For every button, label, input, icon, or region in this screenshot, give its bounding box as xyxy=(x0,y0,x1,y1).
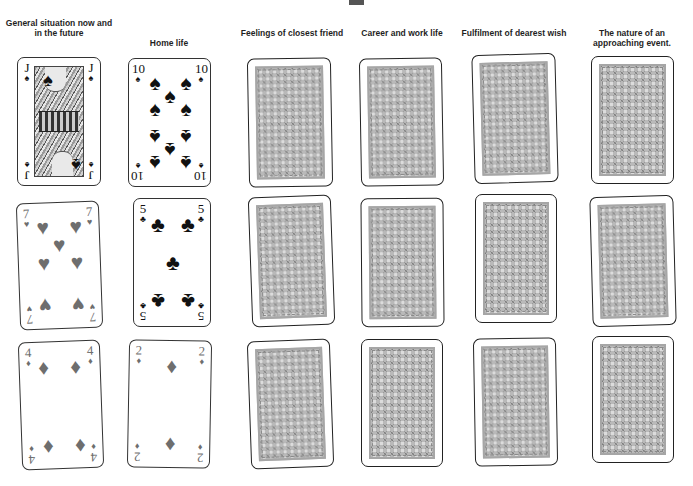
card-face-down[interactable] xyxy=(360,198,444,328)
card-index: 10♠ xyxy=(132,161,144,182)
spade-icon: ♠ xyxy=(132,75,144,84)
card-index: J♠ xyxy=(21,160,33,181)
diamond-icon: ♦ xyxy=(133,356,145,365)
card-back-pattern xyxy=(483,202,549,315)
diamond-icon: ♦ xyxy=(65,356,86,377)
heart-icon: ♥ xyxy=(20,220,32,229)
spade-icon: ♠ xyxy=(176,153,196,173)
top-edge-mark xyxy=(349,0,364,5)
heart-icon: ♥ xyxy=(34,253,55,274)
diamond-icon: ♦ xyxy=(70,434,91,455)
club-icon: ♣ xyxy=(178,291,198,311)
column-label-dearest-wish: Fulfilment of dearest wish xyxy=(459,28,569,38)
card-five-of-clubs[interactable]: 5♣ 5♣ 5♣ 5♣ ♣ ♣ ♣ ♣ ♣ xyxy=(133,198,211,327)
diamond-icon: ♦ xyxy=(33,357,54,378)
card-four-of-diamonds[interactable]: 4♦ 4♦ 4♦ 4♦ ♦ ♦ ♦ ♦ xyxy=(18,340,104,471)
column-label-general-situation: General situation now and in the future xyxy=(4,18,114,38)
card-index: 4♦ xyxy=(25,444,38,465)
card-face-down[interactable] xyxy=(361,339,443,467)
card-index: 2♦ xyxy=(133,344,145,365)
card-face-down[interactable] xyxy=(247,57,333,187)
card-back-pattern xyxy=(369,347,435,459)
card-face-down[interactable] xyxy=(589,195,676,327)
diamond-icon: ♦ xyxy=(196,357,208,366)
card-two-of-diamonds[interactable]: 2♦ 2♦ 2♦ 2♦ ♦ ♦ xyxy=(127,339,212,468)
heart-icon: ♥ xyxy=(67,252,88,273)
card-back-pattern xyxy=(481,345,550,458)
card-ten-of-spades[interactable]: 10♠ 10♠ 10♠ 10♠ ♠ ♠ ♠ ♠ ♠ ♠ ♠ ♠ ♠ ♠ xyxy=(128,58,211,187)
card-back-pattern xyxy=(256,203,327,319)
spade-icon: ♠ xyxy=(176,99,196,119)
spade-icon: ♠ xyxy=(85,74,97,83)
card-face-down[interactable] xyxy=(359,57,444,186)
club-icon: ♣ xyxy=(148,215,168,235)
card-face-down[interactable] xyxy=(471,53,558,184)
card-seven-of-hearts[interactable]: 7♥ 7♥ 7♥ 7♥ ♥ ♥ ♥ ♥ ♥ ♥ ♥ xyxy=(16,201,103,331)
card-index: 7♥ xyxy=(23,304,36,325)
spade-icon: ♠ xyxy=(195,75,207,84)
spade-icon: ♠ xyxy=(21,160,33,169)
card-index: J♠ xyxy=(21,62,33,83)
spade-icon: ♠ xyxy=(145,153,165,173)
club-icon: ♣ xyxy=(178,215,198,235)
club-icon: ♣ xyxy=(148,291,168,311)
card-index: J♠ xyxy=(85,160,97,181)
card-index: 2♦ xyxy=(131,441,143,462)
card-face-down[interactable] xyxy=(592,336,674,463)
spade-icon: ♠ xyxy=(85,160,97,169)
diamond-icon: ♦ xyxy=(160,433,180,453)
card-face-down[interactable] xyxy=(248,195,335,328)
card-index: 7♥ xyxy=(20,208,33,229)
column-label-approaching-event: The nature of an approaching event. xyxy=(577,28,687,48)
column-label-home-life: Home life xyxy=(114,38,224,48)
spade-icon: ♠ xyxy=(145,99,165,119)
diamond-icon: ♦ xyxy=(161,356,181,376)
card-back-pattern xyxy=(369,206,437,320)
card-back-pattern xyxy=(367,65,436,178)
card-face-down[interactable] xyxy=(473,337,558,466)
card-face-down[interactable] xyxy=(247,339,334,470)
diamond-icon: ♦ xyxy=(25,444,37,453)
card-jack-of-spades[interactable]: J♠ J♠ J♠ J♠ ♠ ♠ xyxy=(17,57,101,186)
card-back-pattern xyxy=(598,203,669,319)
card-index: 2♦ xyxy=(196,345,208,366)
card-index: J♠ xyxy=(85,62,97,83)
heart-icon: ♥ xyxy=(68,294,89,315)
card-face-down[interactable] xyxy=(591,56,674,184)
card-index: 10♠ xyxy=(195,63,207,84)
card-index: 10♠ xyxy=(132,63,144,84)
card-back-pattern xyxy=(599,64,666,176)
card-face-down[interactable] xyxy=(475,194,557,323)
column-label-closest-friend: Feelings of closest friend xyxy=(237,28,347,38)
spade-icon: ♠ xyxy=(21,74,33,83)
spade-icon: ♠ xyxy=(66,155,86,175)
spade-icon: ♠ xyxy=(38,70,58,90)
diamond-icon: ♦ xyxy=(84,357,96,366)
card-back-pattern xyxy=(255,65,325,179)
card-index: 10♠ xyxy=(195,161,207,182)
card-back-pattern xyxy=(480,61,551,176)
card-back-pattern xyxy=(255,347,326,461)
heart-icon: ♥ xyxy=(23,304,35,313)
column-label-career: Career and work life xyxy=(347,28,457,38)
card-index: 4♦ xyxy=(84,345,97,366)
heart-icon: ♥ xyxy=(35,295,56,316)
club-icon: ♣ xyxy=(163,253,183,273)
card-index: 2♦ xyxy=(194,442,206,463)
card-back-pattern xyxy=(600,344,666,455)
diamond-icon: ♦ xyxy=(38,435,59,456)
